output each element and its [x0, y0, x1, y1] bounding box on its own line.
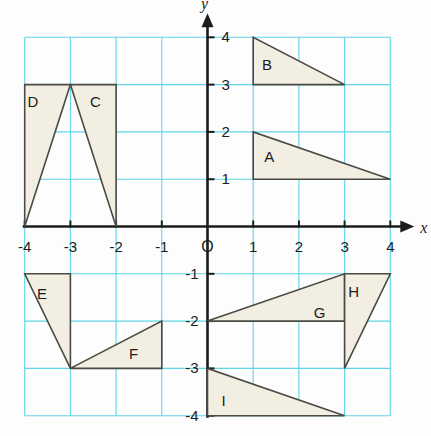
x-tick-label: 3 [340, 238, 348, 255]
shape-labels: ABCDEFGHI [28, 56, 360, 410]
y-tick-label: 2 [222, 123, 230, 140]
y-axis-name: y [199, 0, 209, 13]
x-tick-label: -3 [64, 238, 77, 255]
shape-label-i: I [221, 392, 225, 409]
y-tick-label: -1 [185, 265, 198, 282]
y-tick-label: 4 [222, 28, 230, 45]
shape-i [208, 368, 345, 415]
coordinate-plane-svg: ABCDEFGHI -4-3-2-1O12344321-1-2-3-4 xy [0, 0, 431, 436]
x-axis-arrowhead [400, 221, 414, 233]
axis-name-labels: xy [199, 0, 427, 235]
shape-label-d: D [28, 93, 39, 110]
y-tick-label: 1 [222, 170, 230, 187]
origin-label: O [201, 238, 213, 255]
x-axis-name: x [419, 219, 427, 236]
x-tick-label: -4 [18, 238, 31, 255]
y-tick-label: 3 [222, 76, 230, 93]
shape-label-c: C [90, 93, 101, 110]
shape-label-h: H [348, 283, 359, 300]
x-tick-label: -2 [109, 238, 122, 255]
y-axis-arrowhead [202, 13, 214, 27]
x-tick-label: 4 [386, 238, 394, 255]
shape-label-g: G [314, 304, 326, 321]
shape-label-b: B [262, 56, 272, 73]
x-tick-label: 1 [249, 238, 257, 255]
x-tick-label: 2 [295, 238, 303, 255]
coordinate-plane-figure: ABCDEFGHI -4-3-2-1O12344321-1-2-3-4 xy [0, 0, 431, 436]
y-tick-label: -3 [185, 359, 198, 376]
x-tick-label: -1 [155, 238, 168, 255]
axes [23, 13, 415, 417]
shape-label-e: E [37, 285, 47, 302]
y-tick-label: -4 [185, 407, 198, 424]
y-tick-label: -2 [185, 312, 198, 329]
shape-label-f: F [129, 345, 138, 362]
shape-label-a: A [264, 148, 274, 165]
